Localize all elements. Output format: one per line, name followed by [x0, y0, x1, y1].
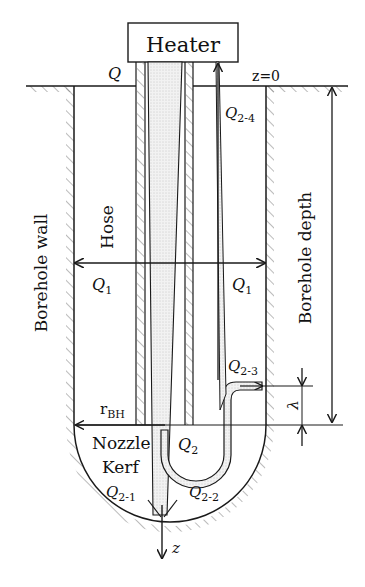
q21-label: Q2-1 [106, 483, 136, 504]
return-u-tube [161, 382, 262, 488]
q1-left-label: Q1 [92, 275, 112, 297]
borehole-wall-label: Borehole wall [31, 214, 51, 333]
q23-label: Q2-3 [228, 357, 258, 378]
rbh-label: rBH [100, 400, 125, 421]
kerf-label: Kerf [102, 457, 140, 477]
heater-label: Heater [146, 33, 221, 57]
q2-label: Q2 [178, 435, 198, 457]
hose-label: Hose [97, 205, 117, 249]
z0-label: z=0 [252, 68, 280, 84]
borehole-heater-diagram: Heater Q2-4 Q z=0 Q1 Q1 Borehole wall Ho… [0, 0, 365, 587]
q1-right-label: Q1 [232, 275, 252, 297]
z-axis-label: z [171, 539, 180, 557]
q24-label: Q2-4 [225, 104, 255, 125]
q-label: Q [108, 64, 121, 83]
lambda-label: λ [284, 400, 302, 411]
borehole-depth-label: Borehole depth [295, 192, 315, 325]
nozzle-label: Nozzle [92, 433, 151, 453]
